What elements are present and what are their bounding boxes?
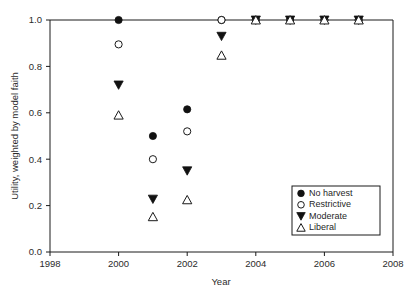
x-axis-title: Year (211, 276, 230, 287)
y-tick-label: 0.6 (29, 107, 42, 118)
marker-open-circle (149, 156, 156, 163)
y-axis-title: Utility, weighted by model faith (9, 72, 20, 200)
figure-background (0, 0, 412, 294)
y-tick-label: 0.4 (29, 154, 42, 165)
y-tick-label: 0.2 (29, 200, 42, 211)
legend-label: Moderate (309, 211, 347, 221)
legend-label: Liberal (309, 222, 336, 232)
legend-label: Restrictive (309, 199, 351, 209)
legend-label: No harvest (309, 188, 353, 198)
marker-filled-circle (184, 106, 191, 113)
scatter-chart: 0.00.20.40.60.81.0 199820002002200420062… (0, 0, 412, 294)
x-tick-label: 1998 (39, 258, 60, 269)
legend: No harvestRestrictiveModerateLiberal (292, 186, 380, 235)
marker-filled-circle (115, 16, 122, 23)
x-tick-label: 2008 (382, 258, 403, 269)
marker-open-circle (184, 128, 191, 135)
marker-filled-circle (298, 190, 305, 197)
x-tick-label: 2004 (245, 258, 266, 269)
marker-open-circle (115, 41, 122, 48)
y-tick-label: 0.0 (29, 246, 42, 257)
x-tick-label: 2000 (108, 258, 129, 269)
x-tick-label: 2002 (177, 258, 198, 269)
y-tick-label: 1.0 (29, 14, 42, 25)
figure-container: 0.00.20.40.60.81.0 199820002002200420062… (0, 0, 412, 294)
x-tick-label: 2006 (314, 258, 335, 269)
y-tick-label: 0.8 (29, 61, 42, 72)
marker-filled-circle (149, 132, 156, 139)
marker-open-circle (298, 202, 305, 209)
marker-open-circle (218, 16, 225, 23)
